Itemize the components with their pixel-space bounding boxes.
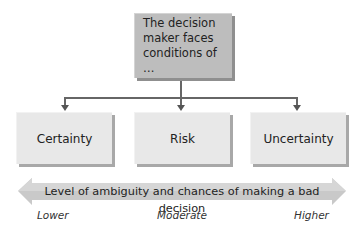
arrow-down-icon [177, 105, 185, 111]
tick-lower: Lower [37, 209, 69, 221]
tick-higher: Higher [294, 209, 329, 221]
certainty-box: Certainty [16, 112, 112, 164]
arrow-down-icon [293, 105, 301, 111]
tick-moderate: Moderate [157, 209, 207, 221]
arrow-down-icon [61, 105, 69, 111]
scale-label: Level of ambiguity and chances of making… [32, 183, 332, 200]
risk-box: Risk [134, 112, 230, 164]
decision-maker-box: The decision maker faces conditions of … [134, 13, 232, 78]
uncertainty-label: Uncertainty [263, 132, 333, 146]
decision-maker-text: The decision maker faces conditions of … [143, 16, 232, 76]
risk-label: Risk [170, 132, 195, 146]
uncertainty-box: Uncertainty [250, 112, 346, 164]
certainty-label: Certainty [37, 132, 93, 146]
